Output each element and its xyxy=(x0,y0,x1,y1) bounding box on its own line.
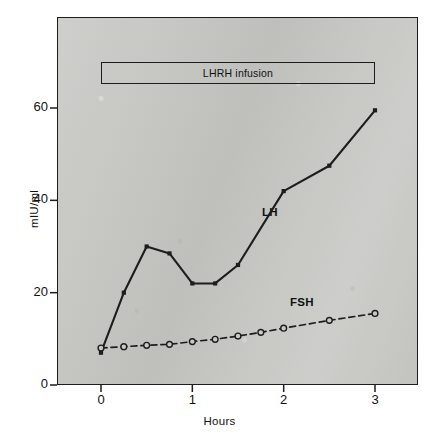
fsh-marker xyxy=(372,311,378,317)
lh-marker xyxy=(236,263,240,267)
fsh-marker xyxy=(144,342,150,348)
fsh-marker xyxy=(281,325,287,331)
lh-marker xyxy=(145,244,149,248)
fsh-line xyxy=(101,313,375,348)
fsh-marker xyxy=(167,341,173,347)
lh-marker xyxy=(190,281,194,285)
fsh-marker xyxy=(258,329,264,335)
fsh-marker xyxy=(235,333,241,339)
lh-marker xyxy=(167,251,171,255)
lh-marker xyxy=(282,189,286,193)
figure-container: 0 20 40 60 0 1 2 3 mIU/ml Hours LHRH inf… xyxy=(0,0,441,440)
lh-marker xyxy=(213,281,217,285)
fsh-marker xyxy=(189,339,195,345)
lh-marker xyxy=(122,291,126,295)
fsh-marker xyxy=(326,317,332,323)
lh-line xyxy=(101,110,375,352)
lh-marker xyxy=(373,108,377,112)
lh-marker xyxy=(327,164,331,168)
fsh-marker xyxy=(98,345,104,351)
fsh-marker xyxy=(212,336,218,342)
plot-svg xyxy=(0,0,441,440)
fsh-marker xyxy=(121,344,127,350)
